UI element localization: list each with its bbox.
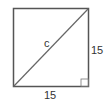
diagonal-label: c [44, 37, 50, 49]
square-diagram: c 15 15 [0, 0, 106, 103]
bottom-side-label: 15 [44, 89, 56, 101]
right-angle-marker [81, 79, 89, 87]
diagonal-line [14, 9, 89, 87]
right-side-label: 15 [91, 44, 103, 56]
